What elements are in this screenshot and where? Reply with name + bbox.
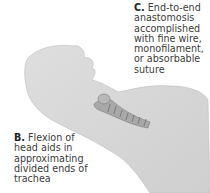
label-c-line: suture — [134, 64, 165, 75]
label-b: B. Flexion of head aids in approximating… — [14, 133, 94, 184]
illustration: C. End-to-end anastomosis accomplished w… — [0, 0, 210, 193]
label-c: C. End-to-end anastomosis accomplished w… — [134, 3, 210, 75]
label-b-line: trachea — [14, 173, 51, 184]
